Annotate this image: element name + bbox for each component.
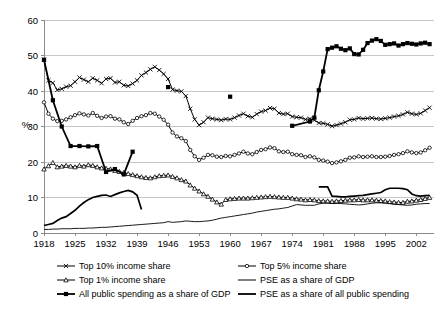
- chart-legend: Top 10% income shareTop 5% income shareT…: [57, 261, 409, 299]
- x-tick-1925: 1925: [64, 238, 85, 249]
- series-5: [44, 187, 430, 226]
- legend-item-4[interactable]: All public spending as a share of GDP: [57, 289, 231, 299]
- x-tick-1953: 1953: [189, 238, 210, 249]
- x-axis-tick-labels: 1918192519321939194619531960196719741981…: [33, 238, 426, 249]
- x-tick-1981: 1981: [313, 238, 334, 249]
- axes: [41, 20, 434, 236]
- legend-item-3[interactable]: PSE as a share of GDP: [238, 275, 355, 285]
- legend-item-0[interactable]: Top 10% income share: [57, 261, 171, 271]
- income-share-public-spending-chart: 0102030405060 19181925193219391946195319…: [0, 0, 446, 312]
- legend-item-1[interactable]: Top 5% income share: [238, 261, 347, 271]
- legend-label: PSE as a share of all public spending: [260, 289, 409, 299]
- chart-container: 0102030405060 19181925193219391946195319…: [0, 0, 446, 312]
- legend-item-5[interactable]: PSE as a share of all public spending: [238, 289, 409, 299]
- series-4: [44, 203, 430, 230]
- legend-label: Top 1% income share: [79, 275, 166, 285]
- y-tick-50: 50: [27, 50, 38, 61]
- legend-label: PSE as a share of GDP: [260, 275, 355, 285]
- x-tick-1918: 1918: [33, 238, 54, 249]
- x-tick-1995: 1995: [375, 238, 396, 249]
- x-tick-1967: 1967: [251, 238, 272, 249]
- y-tick-0: 0: [33, 228, 38, 239]
- x-tick-1932: 1932: [95, 238, 116, 249]
- legend-label: All public spending as a share of GDP: [79, 289, 231, 299]
- series-2: [42, 161, 432, 207]
- y-tick-60: 60: [27, 15, 38, 26]
- x-tick-1946: 1946: [158, 238, 179, 249]
- x-tick-1988: 1988: [344, 238, 365, 249]
- y-tick-20: 20: [27, 157, 38, 168]
- y-tick-40: 40: [27, 86, 38, 97]
- x-tick-1939: 1939: [126, 238, 147, 249]
- x-tick-1960: 1960: [220, 238, 241, 249]
- y-tick-10: 10: [27, 192, 38, 203]
- x-tick-1974: 1974: [282, 238, 303, 249]
- data-series: [42, 37, 432, 229]
- x-tick-2002: 2002: [406, 238, 427, 249]
- y-axis-title: %: [22, 119, 31, 130]
- legend-label: Top 5% income share: [260, 261, 347, 271]
- legend-label: Top 10% income share: [79, 261, 171, 271]
- legend-item-2[interactable]: Top 1% income share: [57, 275, 166, 285]
